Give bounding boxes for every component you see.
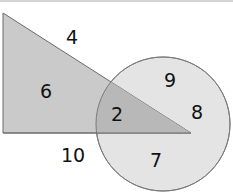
venn-diagram: 4 6 2 9 8 7 10 [0, 0, 233, 192]
label-outside-top: 4 [66, 26, 78, 48]
label-circle-top: 9 [164, 69, 176, 91]
label-triangle-only: 6 [40, 80, 52, 102]
label-outside-bottom: 10 [61, 144, 85, 166]
label-circle-bottom: 7 [150, 149, 162, 171]
label-overlap: 2 [111, 103, 123, 125]
label-circle-right: 8 [191, 101, 203, 123]
